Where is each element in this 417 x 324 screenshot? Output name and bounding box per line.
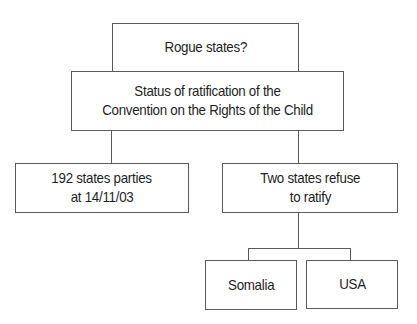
connector-root-to-parties [111, 130, 112, 163]
root-box-line-2: Convention on the Rights of the Child [102, 101, 313, 120]
leaf-box-somalia: Somalia [205, 260, 297, 310]
connector-to-somalia [248, 248, 249, 260]
child-box-states-parties: 192 states parties at 14/11/03 [15, 163, 189, 213]
connector-refuse-bar [248, 248, 351, 249]
child-box-parties-line-2: at 14/11/03 [71, 188, 134, 207]
connector-to-usa [350, 248, 351, 260]
child-box-refuse-line-2: to ratify [289, 188, 330, 207]
title-box-text: Rogue states? [164, 38, 246, 57]
leaf-box-usa: USA [306, 260, 398, 309]
child-box-refuse-to-ratify: Two states refuse to ratify [222, 163, 398, 213]
root-box-ratification-status: Status of ratification of the Convention… [71, 71, 344, 131]
child-box-refuse-line-1: Two states refuse [260, 169, 360, 188]
title-box-rogue-states: Rogue states? [112, 23, 299, 72]
connector-root-to-refuse [298, 130, 299, 163]
root-box-line-1: Status of ratification of the [134, 82, 280, 101]
child-box-parties-line-1: 192 states parties [52, 169, 152, 188]
connector-refuse-stem [298, 212, 299, 248]
leaf-box-somalia-text: Somalia [228, 276, 274, 295]
leaf-box-usa-text: USA [339, 275, 366, 294]
